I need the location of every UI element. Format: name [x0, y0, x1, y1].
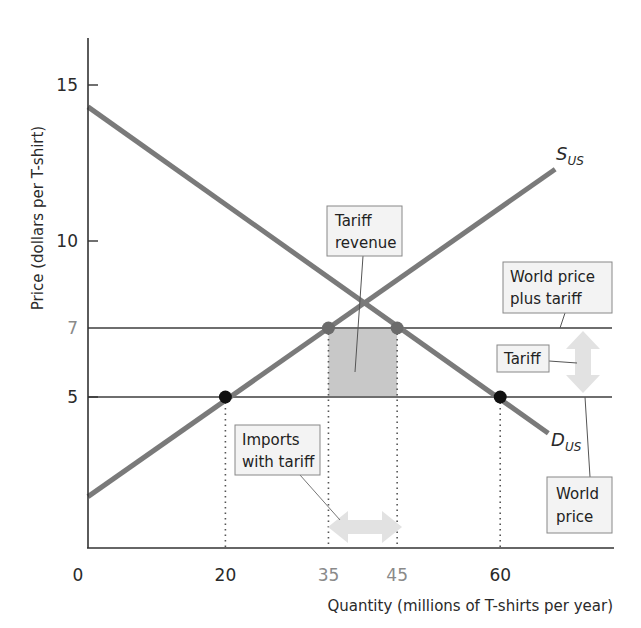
svg-text:plus tariff: plus tariff: [510, 290, 582, 308]
y-tick-label-5: 5: [67, 387, 78, 407]
svg-text:revenue: revenue: [335, 234, 396, 252]
callout-world-price-plus-tariff: World price plus tariff: [503, 262, 612, 328]
supply-curve-label: SUS: [556, 143, 584, 168]
point-35-7: [322, 322, 335, 335]
demand-curve-label: DUS: [551, 429, 582, 454]
x-tick-label-45: 45: [386, 565, 408, 585]
point-60-5: [494, 391, 507, 404]
x-ticks: 020354560: [73, 565, 511, 585]
svg-text:World price: World price: [510, 268, 595, 286]
x-tick-label-35: 35: [318, 565, 340, 585]
y-ticks: 571015: [56, 75, 98, 407]
svg-text:price: price: [556, 508, 593, 526]
demand-curve: [88, 107, 548, 433]
x-tick-label-0: 0: [73, 565, 84, 585]
curves: [88, 107, 555, 497]
y-axis-title: Price (dollars per T-shirt): [29, 126, 47, 310]
svg-text:World: World: [556, 485, 599, 503]
tariff-revenue-region: [328, 328, 397, 397]
x-axis-title: Quantity (millions of T-shirts per year): [327, 597, 613, 615]
svg-text:Imports: Imports: [242, 431, 300, 449]
callout-tariff: Tariff: [497, 345, 577, 372]
y-tick-label-15: 15: [56, 75, 78, 95]
svg-text:with tariff: with tariff: [242, 453, 315, 471]
svg-text:Tariff: Tariff: [503, 350, 541, 368]
point-20-5: [219, 391, 232, 404]
y-tick-label-10: 10: [56, 231, 78, 251]
tariff-double-arrow-icon: [566, 331, 600, 393]
svg-text:Tariff: Tariff: [334, 212, 372, 230]
tariff-chart: 571015 020354560 Price (dollars per T-sh…: [0, 0, 641, 628]
y-tick-label-7: 7: [67, 318, 78, 338]
tariff-revenue-area: [328, 328, 397, 397]
x-tick-label-60: 60: [489, 565, 511, 585]
x-tick-label-20: 20: [215, 565, 237, 585]
imports-double-arrow-icon: [328, 511, 402, 543]
supply-curve: [88, 169, 555, 496]
point-45-7: [391, 322, 404, 335]
callout-imports-with-tariff: Imports with tariff: [235, 425, 340, 520]
callout-world-price: World price: [547, 397, 612, 533]
